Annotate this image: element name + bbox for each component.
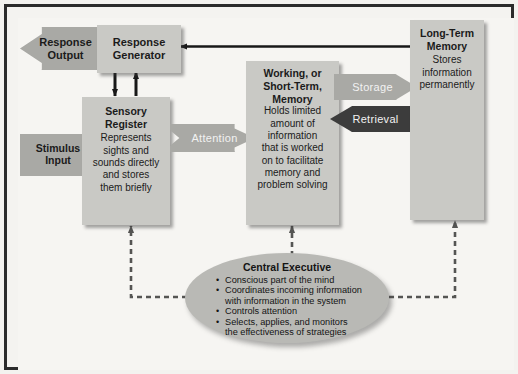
response-generator-title: Response Generator [113, 36, 166, 62]
working-memory-title: Working, or Short-Term, Memory [249, 67, 336, 105]
list-item: Selects, applies, and monitors the effec… [225, 317, 379, 338]
list-item: Controls attention [225, 306, 379, 316]
list-item: Conscious part of the mind [225, 275, 379, 285]
node-central-executive[interactable]: Central Executive Conscious part of the … [185, 253, 389, 343]
sensory-register-body: Represents sights and sounds directly an… [86, 132, 166, 194]
node-sensory-register[interactable]: Sensory Register Represents sights and s… [82, 97, 170, 225]
long-term-memory-title: Long-Term Memory [412, 27, 482, 52]
sensory-register-title: Sensory Register [86, 105, 166, 130]
stimulus-input-label: Stimulus Input [36, 143, 80, 166]
node-working-memory[interactable]: Working, or Short-Term, Memory Holds lim… [246, 61, 339, 225]
central-executive-bullet-list: Conscious part of the mind Coordinates i… [195, 275, 379, 338]
central-executive-title: Central Executive [195, 261, 379, 273]
diagram-canvas: Response Output Response Generator Stimu… [0, 0, 518, 374]
attention-label: Attention [191, 132, 237, 144]
response-output-label: Response Output [39, 36, 92, 60]
node-response-generator[interactable]: Response Generator [97, 25, 181, 73]
working-memory-body: Holds limited amount of information that… [249, 105, 336, 191]
long-term-memory-body: Stores information permanently [412, 54, 482, 92]
retrieval-label: Retrieval [352, 113, 398, 125]
storage-label: Storage [352, 81, 393, 93]
list-item: Coordinates incoming information with in… [225, 285, 379, 306]
node-long-term-memory[interactable]: Long-Term Memory Stores information perm… [410, 20, 484, 220]
